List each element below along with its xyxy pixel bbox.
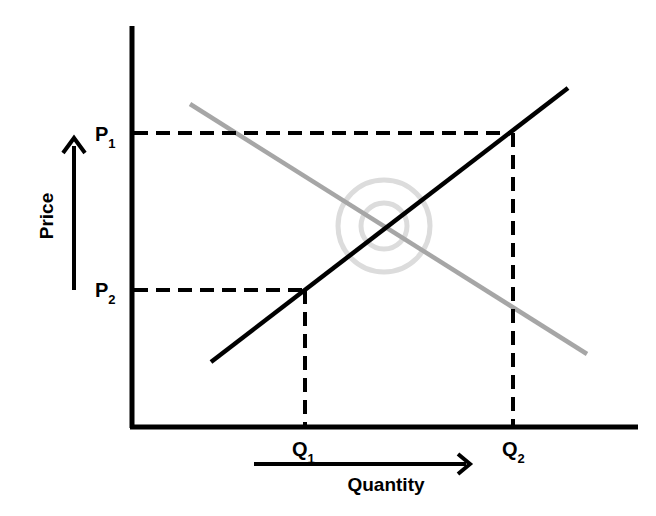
p2-label: P2: [95, 279, 116, 307]
quantity-arrow-icon: [254, 454, 470, 474]
q2-label: Q2: [502, 438, 525, 466]
supply-demand-diagram: Price Quantity P1 P2 Q1 Q2: [0, 0, 656, 516]
q1-label: Q1: [292, 438, 315, 466]
demand-curve: [190, 104, 587, 354]
p1-label: P1: [95, 123, 116, 151]
price-arrow-icon: [63, 138, 85, 290]
y-axis-label: Price: [36, 193, 57, 239]
x-axis-label: Quantity: [347, 474, 424, 495]
